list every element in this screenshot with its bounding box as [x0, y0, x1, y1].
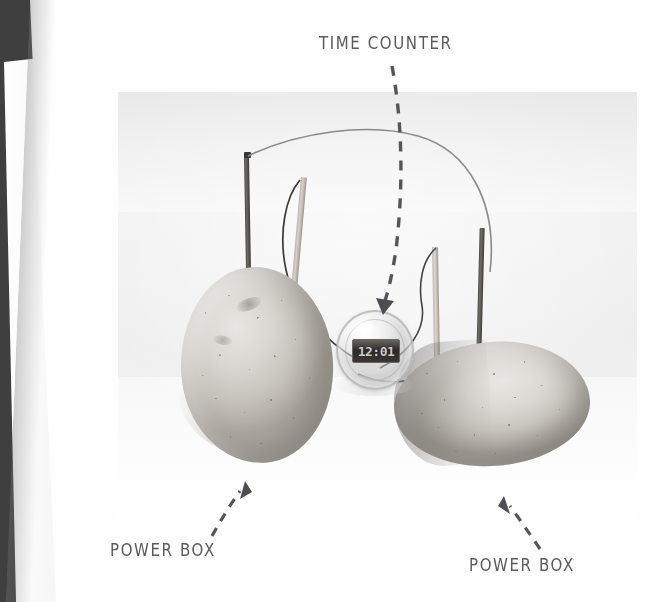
potato-left-reflection-fade — [168, 455, 348, 520]
zinc-electrode-left-cap — [244, 152, 251, 158]
clock-lcd-screen: 12:01 — [352, 339, 400, 363]
experiment-photograph: 12:01 — [118, 92, 637, 520]
clock-lcd-gloss — [353, 340, 399, 350]
photo-backdrop — [118, 92, 637, 212]
potato-right-reflection-fade — [382, 460, 602, 520]
zinc-electrode-right-icon — [476, 228, 484, 356]
scanned-page: 12:01 TIME COUNTER POWER BOX POWER BOX — [0, 0, 672, 602]
digital-clock: 12:01 — [336, 310, 414, 390]
